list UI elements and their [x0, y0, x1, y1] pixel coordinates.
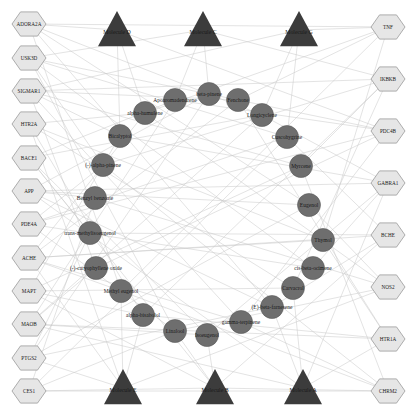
target-label: MAOB [21, 321, 37, 327]
edge [241, 131, 388, 322]
edge [29, 183, 388, 191]
compound-node[interactable]: (E)-beta-farnesene [252, 296, 293, 319]
compound-label: Benzyl benzoate [77, 195, 114, 201]
target-label: GABRA1 [378, 180, 399, 186]
edge [29, 24, 272, 307]
edge [29, 30, 299, 91]
compound-node[interactable]: beta-pinene [196, 83, 222, 106]
target-label: HTR1A [380, 336, 397, 342]
target-node-maob[interactable]: MAOB [12, 312, 46, 336]
edge [29, 191, 309, 205]
compound-label: Longicyclene [247, 112, 277, 118]
compound-label: Apoaromadendrene [153, 97, 197, 103]
target-label: CES1 [23, 388, 36, 394]
target-label: NOS2 [382, 284, 395, 290]
compound-node[interactable]: Apoaromadendrene [153, 89, 197, 112]
compound-node[interactable]: Isoeugenol [195, 324, 220, 347]
target-node-sigmar1[interactable]: SIGMAR1 [12, 79, 46, 103]
target-node-ache[interactable]: ACHE [12, 246, 46, 270]
edge [103, 165, 388, 391]
target-node-ptgs2[interactable]: PTGS2 [12, 346, 46, 370]
compound-node[interactable]: alpha-bisabolol [126, 304, 160, 327]
compound-node[interactable]: Bicalyptol [109, 125, 132, 148]
compound-label: Cuscohygrine [272, 134, 303, 140]
edge [29, 115, 262, 324]
molecule-label: Molecule D [103, 29, 131, 35]
target-node-tnf[interactable]: TNF [371, 15, 405, 39]
edge [29, 331, 175, 391]
target-node-pdc4b[interactable]: PDC4B [371, 119, 405, 143]
target-label: PDC4B [380, 128, 397, 134]
target-label: TNF [383, 24, 393, 30]
compound-label: Bicalyptol [109, 133, 132, 139]
compound-node[interactable]: Myrcene [290, 155, 313, 178]
target-label: MAPT [22, 288, 37, 294]
compound-node[interactable]: alpha-humulene [127, 102, 163, 125]
compound-label: Eugenol [300, 202, 319, 208]
compound-label: Myrcene [291, 163, 311, 169]
molecule-node-molecule-c[interactable]: Molecule C [184, 11, 222, 46]
edge [272, 307, 303, 388]
target-node-bace1[interactable]: BACE1 [12, 146, 46, 170]
compound-label: alpha-humulene [127, 110, 163, 116]
target-node-adora2a[interactable]: ADORA2A [12, 12, 46, 36]
edge [29, 137, 287, 224]
edge [262, 115, 388, 183]
target-node-mapt[interactable]: MAPT [12, 279, 46, 303]
target-label: PDE4A [21, 221, 37, 227]
nodes-layer: ADORA2AUSK3DSIGMAR1HTR2ABACE1APPPDE4AACH… [12, 11, 405, 404]
compound-label: beta-pinene [196, 91, 222, 97]
compound-label: gamma-terpinene [222, 319, 261, 325]
molecule-label: Molecule B [201, 387, 228, 393]
compound-label: (E)-beta-farnesene [252, 304, 293, 311]
molecule-label: Molecule G [285, 29, 313, 35]
target-label: BACE1 [21, 155, 38, 161]
network-canvas: ADORA2AUSK3DSIGMAR1HTR2ABACE1APPPDE4AACH… [0, 0, 417, 418]
edge [96, 131, 388, 268]
compound-label: Carvacrol [282, 285, 304, 291]
molecule-node-molecule-b[interactable]: Molecule B [196, 369, 234, 404]
compound-label: trans-methylisoeugenol [64, 230, 116, 236]
target-node-htr2a[interactable]: HTR2A [12, 112, 46, 136]
compound-node[interactable]: Linalool [164, 320, 187, 343]
target-label: CHRM2 [379, 388, 397, 394]
compound-node[interactable]: Thymol [312, 229, 335, 252]
target-label: ACHE [22, 255, 36, 261]
molecule-label: Molecule C [189, 29, 216, 35]
molecule-node-molecule-a[interactable]: Molecule A [284, 369, 322, 404]
compound-label: cis-beta-ocimene [294, 265, 332, 271]
target-label: IKBKB [380, 76, 397, 82]
compound-label: (-)-caryophyllene oxide [70, 265, 123, 272]
target-label: PTGS2 [21, 355, 37, 361]
compound-node[interactable]: Fenchone [227, 89, 250, 112]
molecule-label: Molecule E [110, 387, 137, 393]
molecule-label: Molecule A [289, 387, 317, 393]
compound-node[interactable]: gamma-terpinene [222, 311, 261, 334]
target-label: SIGMAR1 [18, 88, 41, 94]
compound-label: Methyl eugenol [104, 288, 139, 294]
target-label: HTR2A [21, 121, 38, 127]
target-label: USK3D [21, 55, 38, 61]
compound-node[interactable]: Eugenol [298, 194, 321, 217]
network-diagram: ADORA2AUSK3DSIGMAR1HTR2ABACE1APPPDE4AACH… [0, 0, 417, 418]
compound-label: Linalool [166, 328, 185, 334]
target-node-gabra1[interactable]: GABRA1 [371, 171, 405, 195]
edge [29, 58, 209, 94]
target-node-htr1a[interactable]: HTR1A [371, 327, 405, 351]
target-node-ces1[interactable]: CES1 [12, 379, 46, 403]
molecule-node-molecule-e[interactable]: Molecule E [104, 369, 142, 404]
target-node-bche[interactable]: BCHE [371, 223, 405, 247]
target-node-ikbkb[interactable]: IKBKB [371, 67, 405, 91]
compound-label: Thymol [314, 237, 332, 243]
compound-label: (-)-alpha-pinene [85, 162, 121, 169]
compound-label: Fenchone [227, 97, 249, 103]
target-label: BCHE [381, 232, 395, 238]
molecule-node-molecule-d[interactable]: Molecule D [98, 11, 136, 46]
compound-node[interactable]: Carvacrol [282, 277, 305, 300]
target-node-chrm2[interactable]: CHRM2 [371, 379, 405, 403]
compound-label: Isoeugenol [195, 332, 220, 338]
target-label: ADORA2A [17, 21, 42, 27]
compound-label: alpha-bisabolol [126, 312, 160, 318]
molecule-node-molecule-g[interactable]: Molecule G [280, 11, 318, 46]
compound-node[interactable]: Cuscohygrine [272, 126, 303, 149]
